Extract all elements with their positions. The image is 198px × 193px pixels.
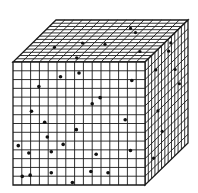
dot-marker (106, 171, 110, 175)
dot-marker (152, 157, 155, 160)
dot-marker (49, 150, 53, 154)
dot-marker (20, 175, 24, 179)
dot-marker (94, 152, 98, 156)
dot-marker (154, 68, 157, 71)
dot-marker (71, 181, 75, 185)
dot-marker (138, 50, 141, 53)
dot-marker (123, 118, 127, 122)
dot-marker (134, 31, 137, 34)
dot-marker (81, 42, 84, 45)
dot-marker (161, 130, 164, 133)
dot-marker (130, 79, 134, 83)
dot-marker (27, 151, 31, 155)
dot-marker (28, 173, 32, 177)
cube-front-face (13, 62, 145, 185)
dot-marker (37, 85, 41, 89)
dot-marker (167, 50, 170, 53)
dot-marker (174, 68, 177, 71)
grid-cube-illustration (0, 0, 198, 193)
dot-marker (49, 171, 53, 175)
dot-marker (98, 96, 102, 100)
dot-marker (75, 128, 79, 132)
dot-marker (129, 27, 132, 30)
dot-marker (16, 144, 20, 148)
dot-marker (103, 43, 106, 46)
dot-marker (89, 170, 93, 174)
dot-marker (46, 135, 50, 139)
cube-diagram (0, 0, 198, 193)
dot-marker (43, 120, 47, 124)
dot-marker (30, 109, 34, 113)
dot-marker (156, 109, 159, 112)
dot-marker (129, 149, 133, 153)
dot-marker (90, 102, 94, 106)
dot-marker (75, 56, 78, 59)
dot-marker (53, 46, 56, 49)
dot-marker (77, 71, 81, 75)
dot-marker (178, 82, 181, 85)
dot-marker (169, 41, 172, 44)
dot-marker (59, 75, 63, 79)
dot-marker (61, 143, 65, 147)
